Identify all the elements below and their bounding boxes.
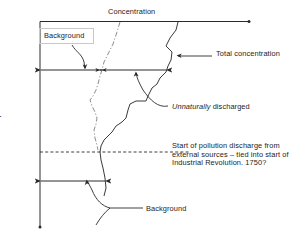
x-axis (40, 20, 251, 23)
leader-background-top (72, 45, 87, 70)
leader-total-concentration (177, 54, 212, 58)
label-discharged: discharged (210, 102, 249, 111)
label-unnaturally-discharged: Unnaturally discharged (172, 103, 250, 112)
y-axis (39, 22, 42, 229)
label-unnaturally-italic: Unnaturally (172, 102, 210, 111)
leader-background-bottom (85, 180, 143, 225)
label-total-concentration: Total concentration (216, 50, 286, 59)
y-axis-label: Depth (0, 107, 2, 127)
label-background-bottom: Background (146, 205, 186, 214)
label-background-top: Background (44, 32, 84, 41)
x-axis-label: Concentration (108, 8, 155, 17)
total-concentration-curve (100, 22, 178, 196)
label-pollution-start-note: Start of pollution discharge from extern… (172, 142, 293, 168)
figure-container: Concentration Depth Background Total con… (0, 0, 293, 238)
background-profile-curve (90, 22, 120, 150)
